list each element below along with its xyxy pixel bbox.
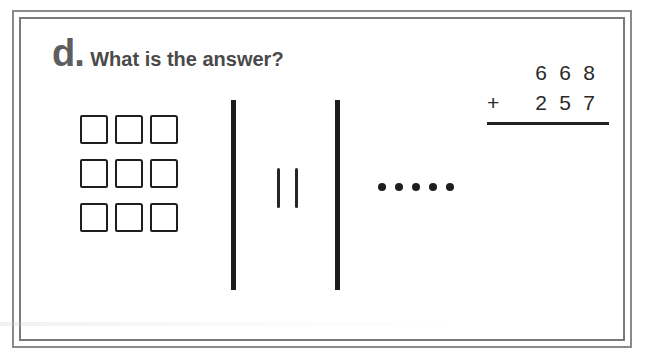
hundred-square-icon <box>150 115 178 144</box>
plus-operator: + <box>487 91 529 115</box>
digit-hundreds: 2 <box>529 91 553 115</box>
hundred-square-icon <box>150 203 178 232</box>
digit-ones: 7 <box>577 91 601 115</box>
one-dot-icon <box>429 183 437 191</box>
addend-bottom-row: + 2 5 7 <box>487 88 609 118</box>
hundred-square-icon <box>80 115 108 144</box>
hundred-square-icon <box>80 159 108 188</box>
digit-tens: 5 <box>553 91 577 115</box>
ten-stick-icon <box>277 168 280 208</box>
one-dot-icon <box>395 183 403 191</box>
digit-hundreds: 6 <box>529 61 553 85</box>
ones-dots <box>378 183 454 191</box>
problem-title: d. What is the answer? <box>52 32 284 75</box>
one-dot-icon <box>378 183 386 191</box>
digit-ones: 8 <box>577 61 601 85</box>
problem-question: What is the answer? <box>90 48 283 70</box>
place-value-divider-left <box>231 100 236 290</box>
one-dot-icon <box>412 183 420 191</box>
scan-artifact <box>0 322 460 326</box>
hundreds-blocks-grid <box>80 115 178 231</box>
sum-underline <box>487 122 609 125</box>
hundred-square-icon <box>150 159 178 188</box>
addend-top-row: 6 6 8 <box>487 58 609 88</box>
one-dot-icon <box>446 183 454 191</box>
digit-tens: 6 <box>553 61 577 85</box>
ten-stick-icon <box>295 168 298 208</box>
problem-letter: d. <box>52 32 84 74</box>
hundred-square-icon <box>115 203 143 232</box>
hundred-square-icon <box>80 203 108 232</box>
hundred-square-icon <box>115 115 143 144</box>
vertical-addition: 6 6 8 + 2 5 7 <box>487 58 609 118</box>
place-value-divider-right <box>335 100 340 290</box>
hundred-square-icon <box>115 159 143 188</box>
